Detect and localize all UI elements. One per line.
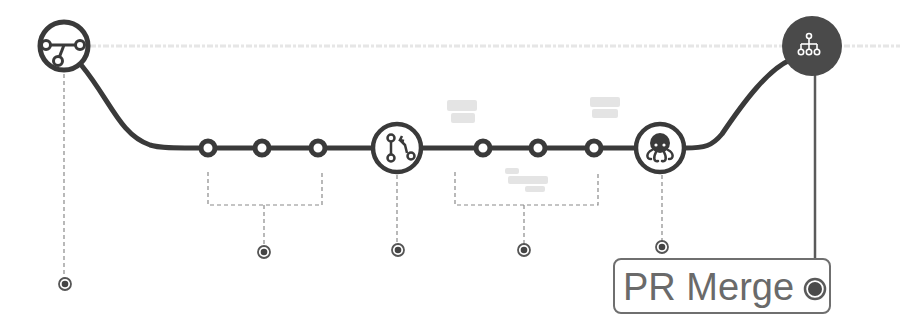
marker-target-icon	[656, 241, 668, 253]
pr-merge-label: PR Merge	[613, 258, 831, 314]
branch-node[interactable]	[40, 22, 88, 70]
dotted-connectors	[64, 74, 662, 279]
marker-target-icon	[59, 278, 71, 290]
pull-request-node[interactable]	[373, 124, 421, 172]
commit-node[interactable]	[587, 141, 601, 155]
pipeline-track	[82, 60, 790, 148]
commit-node[interactable]	[311, 141, 325, 155]
pr-merge-text: PR Merge	[623, 264, 794, 310]
commit-node[interactable]	[255, 141, 269, 155]
commit-node[interactable]	[476, 141, 490, 155]
commit-node[interactable]	[531, 141, 545, 155]
commit-node[interactable]	[201, 141, 215, 155]
bottom-markers	[59, 241, 668, 290]
marker-target-icon	[518, 244, 530, 256]
merge-node[interactable]	[782, 16, 842, 76]
marker-target-icon	[392, 244, 404, 256]
github-node[interactable]	[636, 124, 684, 172]
marker-target-icon	[258, 246, 270, 258]
